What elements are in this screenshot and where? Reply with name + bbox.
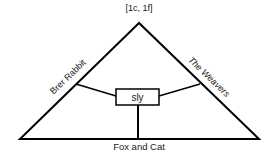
connector-left [76, 84, 116, 96]
right-side-label: The Weavers [186, 55, 232, 100]
bottom-label: Fox and Cat [113, 141, 165, 152]
connector-right [159, 84, 200, 96]
left-side-label: Brer Rabbit [48, 57, 88, 96]
diagram-header: [1c, 1f] [125, 3, 152, 13]
center-label: sly [131, 92, 143, 103]
triangle-diagram: [1c, 1f] sly Brer Rabbit The Weavers Fox… [0, 0, 273, 155]
